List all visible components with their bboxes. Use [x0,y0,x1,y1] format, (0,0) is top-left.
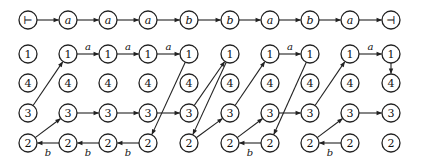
tape-symbol: b [221,11,239,29]
transition-edge: b [118,143,140,158]
node-label: 1 [65,48,72,61]
edge-label: b [125,147,131,158]
node-label: 3 [347,107,354,120]
state-node: 3 [139,104,157,122]
edge-label: a [166,41,172,52]
node-label: 4 [105,77,112,90]
state-node: 1 [59,45,77,63]
node-label: 3 [388,107,395,120]
node-label: a [65,14,72,27]
node-label: 2 [388,137,395,150]
state-node: 3 [99,104,117,122]
arrow [237,119,262,138]
node-label: 4 [145,77,152,90]
transition-edge: b [240,143,262,158]
tape-symbol: ⊢ [19,11,37,29]
transition-edge [237,119,262,138]
node-label: 3 [267,107,274,120]
node-label: 1 [25,48,32,61]
state-node: 4 [59,74,77,92]
node-label: 4 [65,77,72,90]
edge-label: a [85,41,91,52]
state-node: 2 [59,134,77,152]
state-node: 3 [19,104,37,122]
node-label: 2 [186,137,193,150]
node-label: 1 [307,48,314,61]
state-node: 4 [341,74,359,92]
state-node: 4 [19,74,37,92]
arrow [317,119,342,138]
state-node: 1 [139,45,157,63]
node-label: a [347,14,354,27]
tape-symbol: a [139,11,157,29]
node-label: a [145,14,152,27]
arrow [152,62,185,134]
node-label: 4 [186,77,193,90]
node-label: 3 [145,107,152,120]
node-label: 1 [145,48,152,61]
arrow [196,119,222,138]
state-node: 2 [261,134,279,152]
node-label: 1 [388,48,395,61]
state-node: 3 [261,104,279,122]
node-label: b [306,14,313,27]
state-node: 1 [19,45,37,63]
tape-symbol: a [99,11,117,29]
transition-edge: a [77,41,99,54]
state-node: 4 [180,74,198,92]
node-label: 3 [227,107,234,120]
edge-label: b [247,147,253,158]
transition-edge [317,119,342,138]
node-label: 2 [65,137,72,150]
node-label: 3 [307,107,314,120]
state-node: 3 [301,104,319,122]
node-label: 4 [25,77,32,90]
arrow [193,62,226,134]
transition-edge: b [38,143,60,158]
transition-edge: a [279,41,301,54]
state-node: 1 [341,45,359,63]
node-label: 4 [267,77,274,90]
node-label: 1 [227,48,234,61]
transition-edge [274,62,306,134]
node-label: 4 [388,77,395,90]
tape-symbol: a [341,11,359,29]
edge-label: a [287,41,293,52]
node-label: ⊣ [386,14,395,27]
transition-edge: a [359,41,382,54]
edge-label: a [368,41,374,52]
node-label: a [105,14,112,27]
transition-edge: a [157,41,180,54]
state-node: 4 [139,74,157,92]
state-node: 3 [221,104,239,122]
tape-symbol: a [59,11,77,29]
node-label: 2 [25,137,32,150]
state-node: 4 [382,74,400,92]
tape-symbol: b [301,11,319,29]
node-label: 1 [347,48,354,61]
node-label: b [226,14,233,27]
node-label: 2 [347,137,354,150]
state-node: 4 [261,74,279,92]
node-label: 1 [186,48,193,61]
state-node: 3 [382,104,400,122]
transition-edge [152,62,185,134]
state-node: 1 [382,45,400,63]
node-label: 2 [267,137,274,150]
node-label: 4 [347,77,354,90]
node-label: 3 [105,107,112,120]
transition-edge [35,119,60,138]
edge-label: b [85,147,91,158]
transition-edge: b [320,143,342,158]
state-node: 4 [99,74,117,92]
transition-edge: b [78,143,100,158]
arrow [274,62,306,134]
tape-symbol: ⊣ [382,11,400,29]
state-node: 2 [341,134,359,152]
state-node: 2 [19,134,37,152]
transition-edge [196,119,222,138]
state-node: 1 [301,45,319,63]
edge-label: b [327,147,333,158]
tape-symbol: a [261,11,279,29]
state-node: 3 [180,104,198,122]
